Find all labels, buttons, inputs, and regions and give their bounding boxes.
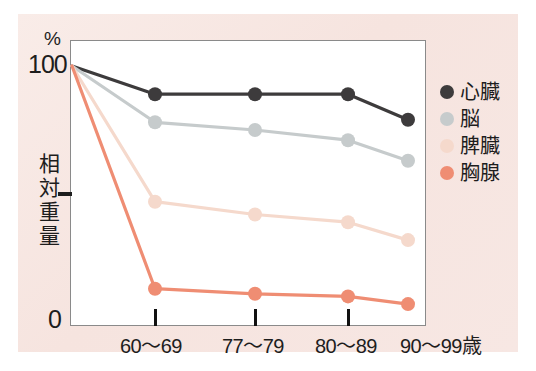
data-point-marker: [401, 154, 415, 168]
y-axis-title-char: 量: [36, 224, 62, 248]
data-point-marker: [341, 289, 355, 303]
x-axis-label-2: 80〜89: [315, 330, 377, 359]
data-point-marker: [148, 115, 162, 129]
y-axis-title-char: 相: [36, 152, 62, 176]
y-axis-tick-0: 0: [48, 305, 62, 334]
y-axis-unit-label: %: [44, 28, 61, 50]
x-axis-tick-mark: [154, 309, 157, 326]
x-axis-tick-mark: [254, 309, 257, 326]
legend: 心臓 脳 脾臓 胸腺: [440, 78, 530, 186]
data-point-marker: [401, 113, 415, 127]
circle-marker-icon: [440, 112, 454, 126]
x-axis-label-3: 90〜99歳: [400, 330, 482, 359]
data-point-marker: [341, 87, 355, 101]
legend-label: 脳: [460, 109, 480, 129]
legend-item-brain[interactable]: 脳: [440, 105, 530, 132]
series-line: [72, 66, 408, 120]
x-axis-label-0: 60〜69: [120, 330, 182, 359]
data-point-marker: [341, 133, 355, 147]
series-line: [72, 66, 408, 240]
y-axis-title: 相 対 重 量: [36, 152, 62, 248]
y-axis-title-char: 重: [36, 200, 62, 224]
data-point-marker: [248, 287, 262, 301]
data-point-marker: [148, 195, 162, 209]
legend-item-heart[interactable]: 心臓: [440, 78, 530, 105]
data-point-marker: [401, 297, 415, 311]
data-point-marker: [148, 87, 162, 101]
data-point-marker: [248, 87, 262, 101]
data-point-marker: [248, 123, 262, 137]
circle-marker-icon: [440, 85, 454, 99]
y-axis-title-char: 対: [36, 176, 62, 200]
data-point-marker: [248, 208, 262, 222]
y-axis-tick-100: 100: [28, 50, 67, 79]
circle-marker-icon: [440, 139, 454, 153]
circle-marker-icon: [440, 166, 454, 180]
x-axis-label-1: 77〜79: [222, 330, 284, 359]
legend-label: 胸腺: [460, 163, 500, 183]
legend-label: 脾臓: [460, 136, 500, 156]
data-point-marker: [341, 215, 355, 229]
figure-root: % 100 0 相 対 重 量 60〜69 77〜79 80〜89 90〜99歳…: [0, 0, 536, 371]
legend-item-spleen[interactable]: 脾臓: [440, 132, 530, 159]
x-axis-tick-mark: [347, 309, 350, 326]
legend-item-thymus[interactable]: 胸腺: [440, 159, 530, 186]
data-point-marker: [148, 282, 162, 296]
chart-plot-area: [70, 40, 426, 326]
data-point-marker: [401, 233, 415, 247]
legend-label: 心臓: [460, 82, 500, 102]
series-group: [72, 66, 415, 311]
